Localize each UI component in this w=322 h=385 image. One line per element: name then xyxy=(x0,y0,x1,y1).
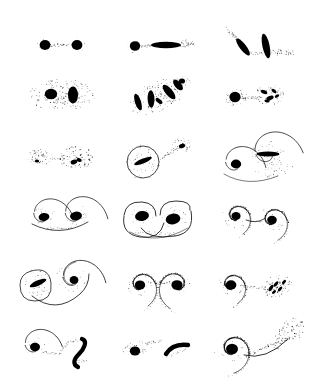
speckle-dot xyxy=(164,95,165,96)
speckle-dot xyxy=(92,93,93,94)
speckle-dot xyxy=(50,227,51,228)
speckle-dot xyxy=(76,157,77,158)
speckle-dot xyxy=(45,98,46,99)
speckle-dot xyxy=(277,103,278,104)
speckle-dot xyxy=(186,39,187,40)
speckle-dot xyxy=(233,307,234,308)
speckle-dot xyxy=(86,217,87,218)
speckle-dot xyxy=(242,94,243,95)
speckle-dot xyxy=(187,78,188,79)
speckle-dot xyxy=(159,341,160,342)
speckle-dot xyxy=(278,278,279,279)
speckle-dot xyxy=(283,333,284,334)
speckle-dot xyxy=(143,102,144,103)
speckle-dot xyxy=(267,344,268,345)
speckle-dot xyxy=(278,225,279,226)
speckle-dot xyxy=(62,282,63,283)
speckle-dot xyxy=(129,348,130,349)
speckle-dot xyxy=(60,350,61,351)
speckle-dot xyxy=(189,142,190,143)
speckle-dot xyxy=(131,293,132,294)
speckle-dot xyxy=(138,277,139,278)
speckle-dot xyxy=(267,282,268,283)
speckle-dot xyxy=(155,105,156,106)
speckle-dot xyxy=(62,153,63,154)
speckle-dot xyxy=(258,172,259,173)
speckle-dot xyxy=(237,336,238,337)
speckle-dot xyxy=(161,232,162,233)
speckle-dot xyxy=(79,164,80,165)
speckle-dot xyxy=(33,153,34,154)
speckle-dot xyxy=(148,44,149,45)
speckle-dot xyxy=(171,102,172,103)
speckle-dot xyxy=(61,229,62,230)
speckle-dot xyxy=(130,348,131,349)
speckle-dot xyxy=(264,217,265,218)
speckle-dot xyxy=(274,103,275,104)
speckle-dot xyxy=(55,46,56,47)
speckle-dot xyxy=(151,285,152,286)
speckle-dot xyxy=(240,276,241,277)
speckle-dot xyxy=(42,284,43,285)
speckle-dot xyxy=(284,339,285,340)
speckle-dot xyxy=(257,97,258,98)
speckle-dot xyxy=(299,326,300,327)
speckle-dot xyxy=(281,343,282,344)
speckle-dot xyxy=(137,206,138,207)
speckle-dot xyxy=(72,223,73,224)
speckle-dot xyxy=(171,356,172,357)
speckle-dot xyxy=(87,91,88,92)
speckle-dot xyxy=(40,152,41,153)
speckle-dot xyxy=(273,289,274,290)
speckle-dot xyxy=(224,285,225,286)
speckle-dot xyxy=(29,292,30,293)
speckle-dot xyxy=(189,80,190,81)
speckle-dot xyxy=(157,165,158,166)
speckle-dot xyxy=(236,210,237,211)
speckle-dot xyxy=(161,93,162,94)
speckle-dot xyxy=(186,45,187,46)
speckle-dot xyxy=(75,155,76,156)
speckle-dot xyxy=(146,351,147,352)
speckle-dot xyxy=(147,231,148,232)
speckle-dot xyxy=(268,346,269,347)
vertical-ellipse xyxy=(68,87,78,104)
speckle-dot xyxy=(255,352,256,353)
speckle-dot xyxy=(130,343,131,344)
speckle-dot xyxy=(269,90,270,91)
speckle-dot xyxy=(233,33,234,34)
speckle-dot xyxy=(250,221,251,222)
speckle-dot xyxy=(174,210,175,211)
speckle-dot xyxy=(292,166,293,167)
speckle-dot xyxy=(272,344,273,345)
speckle-dot xyxy=(56,103,57,104)
speckle-dot xyxy=(172,153,173,154)
speckle-dot xyxy=(299,331,300,332)
speckle-dot xyxy=(68,166,69,167)
speckle-dot xyxy=(240,90,241,91)
speckle-dot xyxy=(53,228,54,229)
speckle-dot xyxy=(253,148,254,149)
speckle-dot xyxy=(153,96,154,97)
round-nucleus xyxy=(229,92,240,102)
speckle-dot xyxy=(50,83,51,84)
speckle-dot xyxy=(157,232,158,233)
speckle-dot xyxy=(280,283,281,284)
speckle-dot xyxy=(173,80,174,81)
speckle-dot xyxy=(281,49,282,50)
speckle-dot xyxy=(241,302,242,303)
speckle-dot xyxy=(287,164,288,165)
speckle-dot xyxy=(63,275,64,276)
speckle-dot xyxy=(50,44,51,45)
speckle-dot xyxy=(40,220,41,221)
speckle-dot xyxy=(151,343,152,344)
speckle-dot xyxy=(154,301,155,302)
speckle-dot xyxy=(281,151,282,152)
speckle-dot xyxy=(36,151,37,152)
speckle-dot xyxy=(167,226,168,227)
speckle-dot xyxy=(141,345,142,346)
speckle-dot xyxy=(162,217,163,218)
speckle-dot xyxy=(266,146,267,147)
speckle-dot xyxy=(189,148,190,149)
speckle-dot xyxy=(159,287,160,288)
